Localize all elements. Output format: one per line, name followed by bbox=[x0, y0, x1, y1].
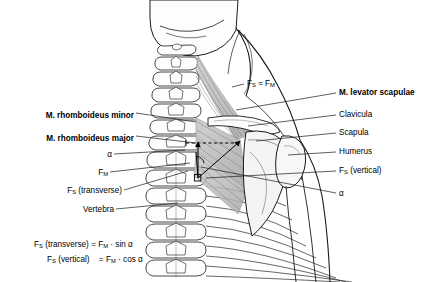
fsv-suffix: (vertical) bbox=[348, 166, 382, 175]
fm-sub: M bbox=[270, 82, 275, 88]
label-f-s-vertical: FS (vertical) bbox=[339, 167, 382, 176]
f-m-subscript: M bbox=[103, 171, 108, 177]
formula1-rhs-rest: · sin α bbox=[108, 240, 133, 249]
cervical-vertebrae bbox=[149, 44, 203, 150]
label-alpha-right: α bbox=[339, 190, 344, 198]
formula2-rhs-rest: · cos α bbox=[116, 255, 143, 264]
label-humerus: Humerus bbox=[339, 148, 372, 156]
formula-transverse: FS (transverse) = FM · sin α bbox=[34, 241, 133, 250]
f-s-suffix: (transverse) bbox=[76, 186, 122, 195]
label-levator-scapulae: M. levator scapulae bbox=[339, 89, 415, 97]
formula-vertical: FS (vertical) = FM · cos α bbox=[47, 256, 143, 265]
diagram-canvas: M. rhomboideus minor M. rhomboideus majo… bbox=[0, 0, 446, 282]
formula2-lhs-rest: (vertical) bbox=[56, 255, 90, 264]
formula1-lhs-rest: (transverse) bbox=[43, 240, 89, 249]
label-f-s-transverse: FS (transverse) bbox=[44, 187, 122, 196]
label-clavicula: Clavicula bbox=[339, 111, 372, 119]
label-rhomboideus-major: M. rhomboideus major bbox=[14, 135, 134, 143]
label-scapula: Scapula bbox=[339, 129, 369, 137]
label-vertebra: Vertebra bbox=[56, 206, 114, 214]
label-f-s-approx-f-m: FS ≈ FM bbox=[247, 80, 275, 89]
label-rhomboideus-minor: M. rhomboideus minor bbox=[14, 112, 134, 120]
label-alpha-left: α bbox=[84, 151, 112, 159]
approx-sym: ≈ F bbox=[256, 79, 270, 88]
formula1-equals: = bbox=[91, 240, 96, 249]
label-f-m: FM bbox=[84, 169, 108, 178]
formula2-equals: = bbox=[99, 255, 104, 264]
